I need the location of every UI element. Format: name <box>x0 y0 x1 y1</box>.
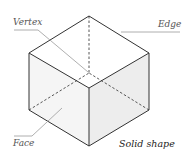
solid-shape-diagram: Vertex Edge Face Solid shape <box>0 0 191 160</box>
vertex-label: Vertex <box>13 17 42 27</box>
diagram-title: Solid shape <box>119 138 175 149</box>
edge-label: Edge <box>158 19 181 29</box>
face-label: Face <box>13 138 34 148</box>
